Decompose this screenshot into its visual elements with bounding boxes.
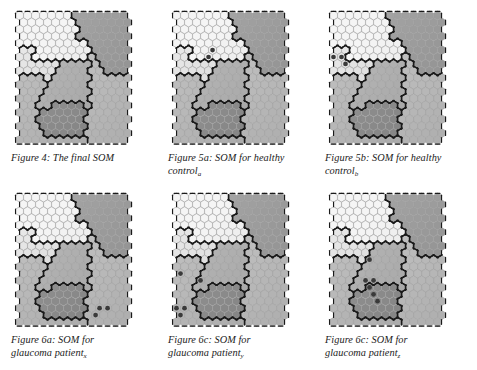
figure-caption-figure-6c-right: Figure 6c: SOM for glaucoma patientz — [322, 334, 475, 362]
caption-subscript: b — [355, 169, 359, 177]
figure-caption-figure-4: Figure 4: The final SOM — [8, 152, 161, 165]
som-cell — [269, 317, 277, 326]
som-cell — [261, 135, 269, 144]
som-hit-marker — [371, 278, 376, 283]
som-cell — [16, 317, 24, 326]
som-cell — [426, 135, 434, 144]
som-hit-marker — [343, 62, 348, 67]
som-cell — [32, 317, 40, 326]
som-hit-marker — [93, 313, 98, 318]
caption-subscript: a — [198, 169, 202, 177]
caption-line: Figure 6a: SOM for — [11, 334, 161, 347]
caption-line: Figure 4: The final SOM — [11, 152, 161, 165]
som-cell — [330, 135, 338, 144]
caption-line-text: control — [168, 165, 198, 176]
som-grid — [169, 8, 292, 148]
som-cell — [112, 135, 120, 144]
som-map-figure-6a — [12, 190, 144, 330]
figure-caption-figure-5a: Figure 5a: SOM for healthy controla — [165, 152, 318, 180]
som-cell — [189, 317, 197, 326]
figure-caption-figure-6a: Figure 6a: SOM for glaucoma patientx — [8, 334, 161, 362]
som-cell — [104, 317, 112, 326]
som-cell — [245, 135, 253, 144]
som-cell — [434, 135, 442, 144]
som-hit-marker — [105, 306, 110, 311]
som-hit-marker — [371, 292, 376, 297]
som-grid — [326, 8, 449, 148]
som-hit-marker — [339, 55, 344, 60]
som-cell — [418, 317, 426, 326]
caption-line: Figure 6c: SOM for — [168, 334, 318, 347]
som-hit-marker — [178, 313, 183, 318]
caption-subscript: z — [398, 351, 401, 359]
figure-panel-figure-6c-middle: Figure 6c: SOM for glaucoma patienty — [165, 190, 320, 362]
som-cell — [181, 135, 189, 144]
som-hit-marker — [97, 306, 102, 311]
figure-panel-figure-4: Figure 4: The final SOM — [8, 8, 163, 165]
figure-caption-figure-6c-middle: Figure 6c: SOM for glaucoma patienty — [165, 334, 318, 362]
som-map-figure-5a — [169, 8, 301, 148]
caption-line: controlb — [325, 165, 475, 180]
figure-panel-figure-5b: Figure 5b: SOM for healthy controlb — [322, 8, 477, 180]
som-cell — [346, 317, 354, 326]
caption-subscript: y — [241, 351, 244, 359]
caption-line: glaucoma patientz — [325, 347, 475, 362]
som-cell — [88, 135, 96, 144]
caption-line: glaucoma patientx — [11, 347, 161, 362]
caption-line: Figure 5b: SOM for healthy — [325, 152, 475, 165]
caption-line-text: glaucoma patient — [11, 347, 84, 358]
som-cell — [410, 135, 418, 144]
caption-line-text: control — [325, 165, 355, 176]
caption-line: controla — [168, 165, 318, 180]
som-cell — [338, 317, 346, 326]
caption-subscript: x — [84, 351, 87, 359]
som-cell — [269, 135, 277, 144]
som-hit-marker — [367, 257, 372, 262]
som-hit-marker — [182, 306, 187, 311]
som-cell — [426, 317, 434, 326]
som-cell — [96, 317, 104, 326]
figure-panel-figure-5a: Figure 5a: SOM for healthy controla — [165, 8, 320, 180]
som-hit-marker — [198, 278, 203, 283]
som-cell — [346, 135, 354, 144]
figure-panel-figure-6c-right: Figure 6c: SOM for glaucoma patientz — [322, 190, 477, 362]
som-cell — [96, 135, 104, 144]
som-cell — [88, 317, 96, 326]
som-cell — [120, 317, 128, 326]
som-cell — [330, 317, 338, 326]
caption-line-text: glaucoma patient — [325, 347, 398, 358]
som-cell — [24, 317, 32, 326]
caption-line: Figure 5a: SOM for healthy — [168, 152, 318, 165]
som-hit-marker — [206, 55, 211, 60]
som-cell — [338, 135, 346, 144]
som-grid — [12, 8, 135, 148]
caption-line-text: glaucoma patient — [168, 347, 241, 358]
som-cell — [402, 135, 410, 144]
som-cell — [173, 135, 181, 144]
som-cell — [32, 135, 40, 144]
figure-sheet: Figure 4: The final SOM Figure 5a: SOM f… — [0, 0, 477, 370]
som-map-figure-6c-right — [326, 190, 458, 330]
som-cell — [402, 317, 410, 326]
figure-panel-figure-6a: Figure 6a: SOM for glaucoma patientx — [8, 190, 163, 362]
som-cell — [253, 135, 261, 144]
som-hit-marker — [367, 285, 372, 290]
som-cell — [104, 135, 112, 144]
figure-caption-figure-5b: Figure 5b: SOM for healthy controlb — [322, 152, 475, 180]
som-hit-marker — [375, 299, 380, 304]
som-hit-marker — [174, 306, 179, 311]
som-cell — [434, 317, 442, 326]
som-hit-marker — [363, 278, 368, 283]
caption-line: glaucoma patienty — [168, 347, 318, 362]
som-map-figure-4 — [12, 8, 144, 148]
som-cell — [16, 135, 24, 144]
som-map-figure-5b — [326, 8, 458, 148]
som-cell — [277, 135, 285, 144]
som-grid — [12, 190, 135, 330]
som-map-figure-6c-middle — [169, 190, 301, 330]
som-cell — [253, 317, 261, 326]
som-cell — [189, 135, 197, 144]
som-hit-marker — [210, 48, 215, 53]
som-hit-marker — [178, 271, 183, 276]
som-cell — [112, 317, 120, 326]
